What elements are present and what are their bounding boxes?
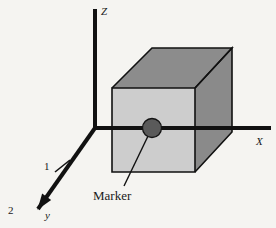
figure-canvas: Z X y 1 2 Marker [0,0,276,228]
marker-caption-label: Marker [93,188,132,203]
y-axis-tick-label-1: 1 [44,160,50,172]
y-axis-label: y [44,209,50,221]
y-axis-tick-label-2: 2 [8,204,14,216]
coordinate-system-diagram: Z X y 1 2 Marker [0,0,276,228]
x-axis-label: X [255,135,264,147]
z-axis-label: Z [101,5,108,17]
marker-dot-icon [143,119,162,138]
